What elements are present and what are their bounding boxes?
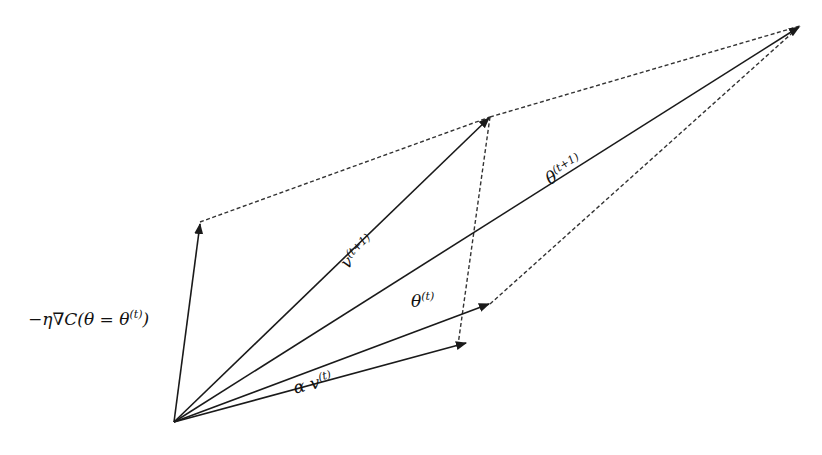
theta-next-vector	[174, 27, 799, 422]
dashed-edge-v-to-theta-next	[490, 26, 800, 117]
gradient-step-label: −η∇C(θ = θ(t))	[28, 308, 149, 329]
gradient-label-sup: (t)	[129, 308, 142, 321]
gradient-step-vector	[174, 224, 200, 422]
gradient-label-base: −η∇C(θ = θ	[28, 309, 129, 329]
alpha-velocity-label-sup: (t)	[317, 368, 333, 384]
dashed-edge-grad-to-v	[200, 117, 490, 222]
dashed-edge-v-to-alpha-v	[458, 117, 490, 345]
gradient-label-tail: )	[142, 309, 149, 329]
dashed-edge-theta-to-theta-next	[490, 26, 800, 304]
vector-diagram	[0, 0, 822, 455]
theta-current-label-sup: (t)	[421, 290, 434, 303]
theta-current-label-base: θ	[411, 291, 421, 311]
theta-current-label: θ(t)	[411, 290, 434, 311]
